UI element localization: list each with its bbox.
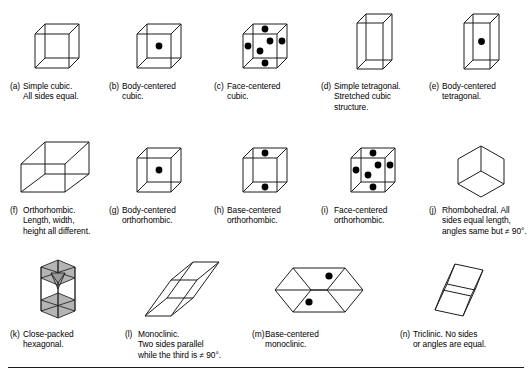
- lattice-point: [375, 162, 382, 169]
- caption-letter: (b): [109, 81, 122, 91]
- lattice-point: [278, 38, 285, 45]
- lattice-cell-rhombohedral: (j) Rhombohedral. All sides equal length…: [427, 132, 532, 236]
- caption-body-centered-cubic: (b) Body-centered cubic.: [109, 81, 210, 102]
- caption-text: Simple tetragonal. Stretched cubic struc…: [334, 81, 427, 112]
- lattice-point: [261, 150, 268, 157]
- lattice-point: [261, 184, 268, 191]
- lattice-cell-simple-cubic: (a) Simple cubic. All sides equal.: [0, 8, 105, 112]
- lattice-cell-simple-tetragonal: (d) Simple tetragonal. Stretched cubic s…: [317, 8, 427, 112]
- lattice-cell-body-centered-orthorhombic: (g) Body-centered orthorhombic.: [105, 132, 210, 236]
- caption-letter: (l): [125, 329, 138, 339]
- caption-letter: (m): [252, 329, 265, 339]
- lattice-point: [365, 172, 372, 179]
- caption-text: Base-centered orthorhombic.: [227, 205, 317, 226]
- caption-text: Face-centered orthorhombic.: [334, 205, 427, 226]
- lattice-row-3: (k) Close-packed hexagonal.: [0, 256, 532, 360]
- caption-text: Body-centered tetragonal.: [442, 81, 532, 102]
- caption-face-centered-orthorhombic: (i) Face-centered orthorhombic.: [321, 205, 427, 226]
- caption-text: Simple cubic. All sides equal.: [23, 81, 105, 102]
- lattice-cell-base-centered-monoclinic: (m) Base-centered monoclinic.: [238, 256, 386, 360]
- caption-text: Body-centered orthorhombic.: [122, 205, 210, 226]
- caption-text: Base-centered monoclinic.: [265, 329, 386, 350]
- diagram-face-centered-cubic: [214, 8, 317, 74]
- lattice-cell-orthorhombic: (f) Orthorhombic. Length, width, height …: [0, 132, 105, 236]
- lattice-point: [305, 298, 312, 305]
- lattice-point: [370, 150, 377, 157]
- lattice-cell-face-centered-cubic: (c) Face-centered cubic.: [210, 8, 317, 112]
- lattice-point: [387, 162, 394, 169]
- lattice-point: [155, 43, 162, 50]
- caption-text: Monoclinic. Two sides parallel while the…: [138, 329, 238, 360]
- diagram-simple-cubic: [10, 8, 105, 74]
- diagram-base-centered-monoclinic: [252, 256, 386, 322]
- lattice-cell-close-packed-hexagonal: (k) Close-packed hexagonal.: [0, 256, 105, 360]
- diagram-close-packed-hexagonal: [10, 256, 105, 322]
- caption-text: Body-centered cubic.: [122, 81, 210, 102]
- caption-base-centered-monoclinic: (m) Base-centered monoclinic.: [252, 329, 386, 350]
- caption-text: Triclinic. No sides or angles are equal.: [413, 329, 522, 350]
- caption-letter: (j): [429, 205, 442, 215]
- lattice-row-2: (f) Orthorhombic. Length, width, height …: [0, 132, 532, 236]
- caption-letter: (g): [109, 205, 122, 215]
- lattice-point: [325, 272, 332, 279]
- caption-orthorhombic: (f) Orthorhombic. Length, width, height …: [10, 205, 105, 236]
- lattice-point: [261, 60, 268, 67]
- lattice-row-1: (a) Simple cubic. All sides equal. (b): [0, 8, 532, 112]
- diagram-base-centered-orthorhombic: [214, 132, 317, 198]
- lattice-point: [256, 48, 263, 55]
- caption-text: Close-packed hexagonal.: [23, 329, 105, 350]
- lattice-point: [353, 167, 360, 174]
- diagram-orthorhombic: [10, 132, 105, 198]
- caption-letter: (c): [214, 81, 227, 91]
- bottom-rule: [8, 367, 524, 368]
- caption-body-centered-orthorhombic: (g) Body-centered orthorhombic.: [109, 205, 210, 226]
- caption-letter: (n): [400, 329, 413, 339]
- diagram-triclinic: [400, 256, 522, 322]
- lattice-cell-body-centered-tetragonal: (e) Body-centered tetragonal.: [427, 8, 532, 112]
- caption-letter: (i): [321, 205, 334, 215]
- caption-face-centered-cubic: (c) Face-centered cubic.: [214, 81, 317, 102]
- lattice-cell-monoclinic: (l) Monoclinic. Two sides parallel while…: [105, 256, 238, 360]
- caption-letter: (f): [10, 205, 23, 215]
- lattice-point: [261, 26, 268, 33]
- lattice-point: [370, 184, 377, 191]
- caption-close-packed-hexagonal: (k) Close-packed hexagonal.: [10, 329, 105, 350]
- diagram-face-centered-orthorhombic: [321, 132, 427, 198]
- caption-letter: (d): [321, 81, 334, 91]
- diagram-simple-tetragonal: [321, 8, 427, 74]
- lattice-point: [266, 38, 273, 45]
- lattice-cell-triclinic: (n) Triclinic. No sides or angles are eq…: [386, 256, 522, 360]
- caption-text: Face-centered cubic.: [227, 81, 317, 102]
- lattice-point: [478, 38, 485, 45]
- caption-letter: (a): [10, 81, 23, 91]
- caption-rhombohedral: (j) Rhombohedral. All sides equal length…: [429, 205, 532, 236]
- lattice-cell-face-centered-orthorhombic: (i) Face-centered orthorhombic.: [317, 132, 427, 236]
- caption-simple-tetragonal: (d) Simple tetragonal. Stretched cubic s…: [321, 81, 427, 112]
- caption-monoclinic: (l) Monoclinic. Two sides parallel while…: [125, 329, 238, 360]
- diagram-rhombohedral: [429, 132, 532, 198]
- diagram-body-centered-tetragonal: [429, 8, 532, 74]
- caption-simple-cubic: (a) Simple cubic. All sides equal.: [10, 81, 105, 102]
- caption-base-centered-orthorhombic: (h) Base-centered orthorhombic.: [214, 205, 317, 226]
- caption-body-centered-tetragonal: (e) Body-centered tetragonal.: [429, 81, 532, 102]
- lattice-cell-base-centered-orthorhombic: (h) Base-centered orthorhombic.: [210, 132, 317, 236]
- diagram-monoclinic: [125, 256, 238, 322]
- caption-text: Orthorhombic. Length, width, height all …: [23, 205, 105, 236]
- caption-letter: (k): [10, 329, 23, 339]
- caption-triclinic: (n) Triclinic. No sides or angles are eq…: [400, 329, 522, 350]
- caption-text: Rhombohedral. All sides equal length, an…: [442, 205, 532, 236]
- caption-letter: (h): [214, 205, 227, 215]
- crystal-lattice-figure: (a) Simple cubic. All sides equal. (b): [0, 0, 532, 377]
- diagram-body-centered-orthorhombic: [109, 132, 210, 198]
- lattice-point: [244, 43, 251, 50]
- diagram-body-centered-cubic: [109, 8, 210, 74]
- lattice-point: [155, 167, 162, 174]
- caption-letter: (e): [429, 81, 442, 91]
- lattice-cell-body-centered-cubic: (b) Body-centered cubic.: [105, 8, 210, 112]
